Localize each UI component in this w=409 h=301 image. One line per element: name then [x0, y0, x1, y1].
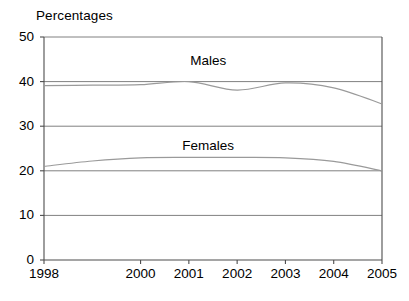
x-axis-tick-label: 2002 — [222, 267, 252, 281]
y-axis-tick-label: 20 — [4, 164, 34, 178]
x-axis-tick-label: 2003 — [270, 267, 300, 281]
series-label-males: Males — [190, 54, 226, 68]
x-axis-tick-label: 2001 — [174, 267, 204, 281]
y-axis-ticks-group — [40, 37, 44, 260]
series-line-males — [44, 81, 382, 103]
percentages-line-chart: Percentages 01020304050 1998200020012002… — [0, 0, 409, 301]
x-axis-tick-label: 2004 — [319, 267, 349, 281]
x-axis-ticks-group — [44, 260, 382, 264]
series-label-females: Females — [182, 139, 234, 153]
x-axis-tick-label: 2000 — [126, 267, 156, 281]
x-axis-tick-label: 2005 — [367, 267, 397, 281]
y-axis-tick-label: 50 — [4, 30, 34, 44]
y-axis-tick-label: 30 — [4, 119, 34, 133]
y-axis-tick-label: 10 — [4, 208, 34, 222]
x-axis-tick-label: 1998 — [29, 267, 59, 281]
series-line-females — [44, 157, 382, 170]
y-axis-tick-label: 40 — [4, 75, 34, 89]
y-axis-tick-label: 0 — [4, 253, 34, 267]
